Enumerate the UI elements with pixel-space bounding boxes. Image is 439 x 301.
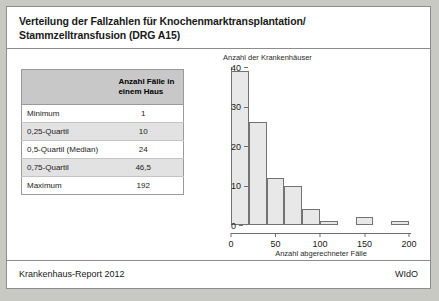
figure-title: Verteilung der Fallzahlen für Knochenmar… — [7, 7, 430, 49]
figure-footer: Krankenhaus-Report 2012 WIdO — [7, 260, 430, 288]
y-tick-mark — [239, 225, 243, 226]
y-tick-mark — [244, 146, 248, 147]
x-tick: 0 — [228, 233, 233, 249]
histogram-bar — [391, 221, 409, 225]
y-tick-label: 0 — [231, 221, 236, 231]
histogram-bar — [249, 122, 267, 225]
y-axis-title: Anzahl der Krankenhäuser — [223, 53, 312, 62]
x-tick: 200 — [401, 233, 416, 249]
table-row: Maximum192 — [22, 177, 184, 195]
table-cell-label: 0,25-Quartil — [22, 123, 114, 141]
footer-source: Krankenhaus-Report 2012 — [19, 269, 125, 279]
table-row: Minimum1 — [22, 105, 184, 123]
x-tick: 150 — [357, 233, 372, 249]
statistics-table: Anzahl Fälle in einem Haus Minimum10,25-… — [21, 69, 184, 195]
table-body: Minimum10,25-Quartil100,5-Quartil (Media… — [22, 105, 184, 195]
x-tick-label: 100 — [312, 239, 327, 249]
title-line-2: Stammzelltransfusion (DRG A15) — [19, 29, 418, 43]
x-tick-label: 50 — [270, 239, 280, 249]
table-cell-label: 0,75-Quartil — [22, 159, 114, 177]
histogram-bar — [284, 186, 302, 226]
y-tick-mark — [244, 107, 248, 108]
y-tick-mark — [244, 67, 248, 68]
table-header-blank — [22, 70, 114, 105]
y-tick-label: 20 — [231, 142, 241, 152]
histogram-bar — [356, 217, 374, 225]
x-tick-label: 0 — [228, 239, 233, 249]
table-row: 0,5-Quartil (Median)24 — [22, 141, 184, 159]
table-header-row: Anzahl Fälle in einem Haus — [22, 70, 184, 105]
y-tick-label: 30 — [231, 102, 241, 112]
table-header-value: Anzahl Fälle in einem Haus — [113, 70, 183, 105]
table-cell-value: 1 — [113, 105, 183, 123]
x-tick-label: 200 — [401, 239, 416, 249]
x-tick-mark — [320, 233, 321, 237]
x-tick: 50 — [270, 233, 280, 249]
title-line-1: Verteilung der Fallzahlen für Knochenmar… — [19, 15, 418, 29]
table-cell-value: 10 — [113, 123, 183, 141]
x-tick-mark — [364, 233, 365, 237]
x-axis-title: Anzahl abgerechneter Fälle — [231, 249, 411, 258]
y-tick-mark — [244, 186, 248, 187]
x-tick: 100 — [312, 233, 327, 249]
figure-panel: Verteilung der Fallzahlen für Knochenmar… — [6, 6, 431, 289]
table-cell-value: 24 — [113, 141, 183, 159]
histogram-bar — [320, 221, 338, 225]
table-cell-label: Maximum — [22, 177, 114, 195]
x-tick-mark — [275, 233, 276, 237]
histogram-chart: Anzahl der Krankenhäuser 010203040 05010… — [203, 53, 431, 258]
table-row: 0,25-Quartil10 — [22, 123, 184, 141]
plot-area — [231, 67, 409, 225]
histogram-bar — [267, 178, 285, 225]
table-cell-value: 192 — [113, 177, 183, 195]
x-tick-label: 150 — [357, 239, 372, 249]
table-cell-label: Minimum — [22, 105, 114, 123]
y-tick-label: 10 — [231, 181, 241, 191]
table-cell-label: 0,5-Quartil (Median) — [22, 141, 114, 159]
x-tick-mark — [409, 233, 410, 237]
y-tick-label: 40 — [231, 63, 241, 73]
footer-publisher: WIdO — [395, 269, 418, 279]
x-tick-mark — [230, 233, 231, 237]
table-cell-value: 46,5 — [113, 159, 183, 177]
table-row: 0,75-Quartil46,5 — [22, 159, 184, 177]
histogram-bar — [302, 209, 320, 225]
